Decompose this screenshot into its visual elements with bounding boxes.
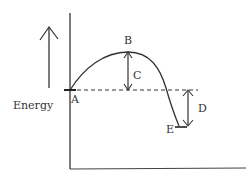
point-e-label: E xyxy=(166,123,174,136)
interval-d-arrow xyxy=(183,90,193,126)
point-a-label: A xyxy=(70,93,80,106)
energy-curve xyxy=(70,52,179,126)
point-b-label: B xyxy=(124,34,132,47)
energy-diagram: B C A D E Energy xyxy=(0,0,247,176)
y-axis-label: Energy xyxy=(13,99,54,112)
interval-c-arrow xyxy=(124,52,132,90)
interval-c-label: C xyxy=(133,69,141,82)
x-axis xyxy=(70,168,246,169)
interval-d-label: D xyxy=(198,102,207,115)
energy-up-arrow xyxy=(40,27,58,88)
